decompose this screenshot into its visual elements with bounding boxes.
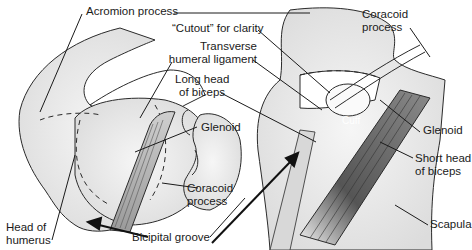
label-glenoid-right: Glenoid — [423, 124, 463, 137]
label-coracoid-process-right: Coracoid process — [362, 8, 408, 34]
label-cuff: Cuff — [342, 114, 360, 127]
label-short-head-of-biceps: Short head of biceps — [415, 152, 471, 178]
label-bicipital-groove: Bicipital groove — [132, 231, 210, 244]
label-scapula: Scapula — [430, 218, 472, 231]
label-acromion-process: Acromion process — [86, 5, 178, 18]
label-coracoid-process-left: Coracoid process — [187, 182, 233, 208]
label-cutout-for-clarity: “Cutout” for clarity — [172, 22, 263, 35]
shoulder-anatomy-figure: Acromion process “Cutout” for clarity Tr… — [0, 0, 472, 250]
label-transverse-humeral-ligament: Transverse humeral ligament — [158, 40, 257, 66]
label-glenoid-left: Glenoid — [201, 121, 241, 134]
label-long-head-of-biceps: Long head of biceps — [175, 73, 229, 99]
label-head-of-humerus: Head of humerus — [6, 221, 51, 247]
